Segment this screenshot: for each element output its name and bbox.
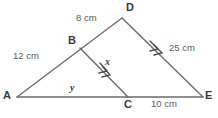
- measure-de-length: 25 cm: [169, 43, 195, 53]
- vertex-label-d: D: [126, 2, 134, 13]
- vertex-label-e: E: [205, 90, 212, 101]
- vertex-label-b: B: [68, 35, 76, 46]
- variable-label-x: x: [105, 57, 110, 67]
- geometry-diagram: A B C D E 8 cm 12 cm 25 cm 10 cm x y: [0, 0, 218, 118]
- measure-ce-length: 10 cm: [151, 99, 177, 109]
- measure-bd-length: 8 cm: [76, 13, 97, 23]
- vertex-label-a: A: [3, 90, 11, 101]
- variable-label-y: y: [70, 83, 74, 93]
- segment-bc: [80, 48, 128, 97]
- measure-ab-length: 12 cm: [13, 51, 39, 61]
- vertex-label-c: C: [124, 99, 132, 110]
- segment-de: [122, 18, 203, 97]
